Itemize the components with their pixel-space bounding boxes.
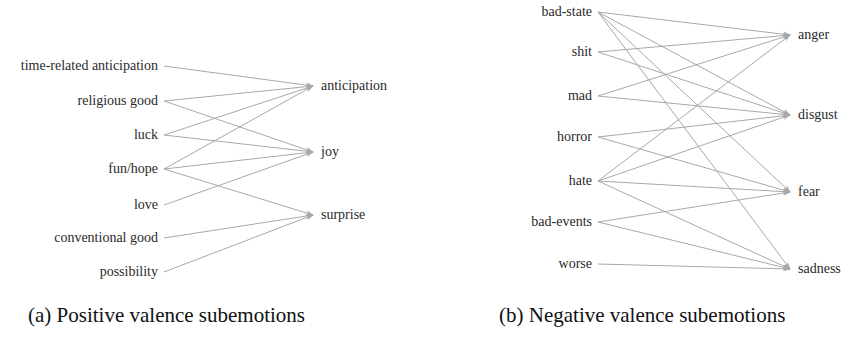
edge-fun-hope-to-joy <box>164 152 313 169</box>
panel-a: time-related anticipationreligious goodl… <box>21 58 387 279</box>
caption-positive-valence: (a) Positive valence subemotions <box>28 303 305 328</box>
left-node-conventional-good: conventional good <box>54 230 158 245</box>
right-node-joy: joy <box>320 144 339 159</box>
left-node-luck: luck <box>134 127 158 142</box>
right-node-surprise: surprise <box>321 207 365 222</box>
left-node-bad-state: bad-state <box>541 4 592 19</box>
left-node-horror: horror <box>557 129 592 144</box>
edge-bad-events-to-sadness <box>598 222 790 269</box>
panel-b: bad-stateshitmadhorrorhatebad-eventswors… <box>531 4 840 276</box>
edge-mad-to-anger <box>598 35 790 96</box>
edge-fun-hope-to-surprise <box>164 169 313 215</box>
right-node-anger: anger <box>798 27 829 42</box>
edge-bad-events-to-fear <box>598 192 790 222</box>
edge-hate-to-fear <box>598 181 790 192</box>
edge-bad-state-to-disgust <box>598 12 790 115</box>
edge-conventional-good-to-surprise <box>164 215 313 238</box>
edge-religious-good-to-joy <box>164 101 313 152</box>
right-node-disgust: disgust <box>798 107 838 122</box>
left-node-love: love <box>134 197 158 212</box>
edge-hate-to-disgust <box>598 115 790 181</box>
bipartite-graphs-canvas: time-related anticipationreligious goodl… <box>0 0 863 352</box>
right-node-sadness: sadness <box>798 261 841 276</box>
left-node-hate: hate <box>569 173 592 188</box>
left-node-worse: worse <box>559 256 592 271</box>
left-node-fun-hope: fun/hope <box>108 161 158 176</box>
caption-negative-valence: (b) Negative valence subemotions <box>499 303 785 328</box>
emotion-subemotion-figure: time-related anticipationreligious goodl… <box>0 0 863 352</box>
edge-love-to-joy <box>164 152 313 205</box>
edge-possibility-to-surprise <box>164 215 313 272</box>
edge-bad-state-to-anger <box>598 12 790 35</box>
edge-shit-to-anger <box>598 35 790 52</box>
edge-bad-state-to-sadness <box>598 12 790 269</box>
left-node-bad-events: bad-events <box>531 214 592 229</box>
edge-time-related-anticipation-to-anticipation <box>164 66 313 86</box>
left-node-religious-good: religious good <box>78 93 159 108</box>
edge-hate-to-anger <box>598 35 790 181</box>
right-node-fear: fear <box>798 184 820 199</box>
left-node-mad: mad <box>568 88 592 103</box>
left-node-shit: shit <box>572 44 592 59</box>
edge-hate-to-sadness <box>598 181 790 269</box>
right-node-anticipation: anticipation <box>321 78 387 93</box>
left-node-possibility: possibility <box>100 264 158 279</box>
edge-luck-to-joy <box>164 135 313 152</box>
edge-horror-to-disgust <box>598 115 790 137</box>
left-node-time-related-anticipation: time-related anticipation <box>21 58 158 73</box>
edge-worse-to-sadness <box>598 264 790 269</box>
